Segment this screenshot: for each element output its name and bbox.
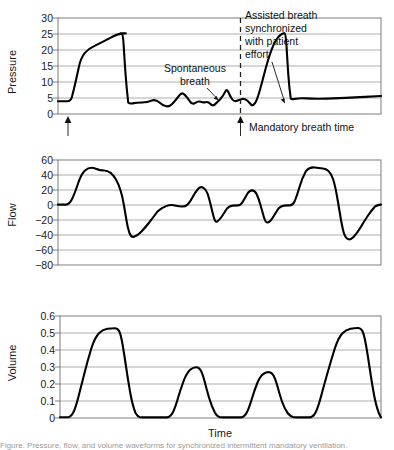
volume-chart-svg: Volume 0.6 0.5 0.4 0.3 0.2 0.1 0 [0,295,394,450]
assisted-breath-label-line3: with patient [244,35,298,47]
flow-gridlines [58,175,381,250]
flow-y-axis-title: Flow [6,203,18,226]
volume-gridlines [60,333,381,401]
spontaneous-breath-label-line2: breath [180,75,210,87]
flow-trace [58,167,381,239]
mandatory-breath-arrow-right [237,116,244,136]
mandatory-breath-arrow-left [65,116,72,136]
volume-trace [60,328,381,417]
pressure-ytick-25: 25 [41,28,53,40]
pressure-tickmarks [53,18,58,114]
pressure-y-axis-title: Pressure [6,50,18,94]
volume-ytick-0-2: 0.2 [40,378,55,390]
pressure-chart-svg: Pressure 30 25 20 15 10 5 0 [0,0,394,145]
pressure-ytick-30: 30 [41,12,53,24]
flow-ytick-20: 20 [41,184,53,196]
flow-ytick-0: 0 [47,199,53,211]
spontaneous-breath-leader [207,88,219,100]
flow-ytick-m60: −60 [35,244,53,256]
assisted-breath-label-line1: Assisted breath [245,9,318,21]
assisted-breath-label-line2: synchronized [245,22,307,34]
volume-tickmarks [55,316,60,418]
volume-y-axis-title: Volume [6,345,18,382]
flow-ytick-m40: −40 [35,229,53,241]
volume-ytick-0-1: 0.1 [40,395,55,407]
volume-ytick-0: 0 [49,412,55,424]
spontaneous-breath-label-line1: Spontaneous [164,62,226,74]
pressure-ytick-20: 20 [41,44,53,56]
mandatory-breath-time-label: Mandatory breath time [249,121,354,133]
volume-chart-panel: Volume 0.6 0.5 0.4 0.3 0.2 0.1 0 [0,295,394,450]
assisted-breath-leader [272,62,285,103]
pressure-ytick-5: 5 [47,92,53,104]
flow-chart-svg: Flow 60 40 20 0 −20 −40 −60 −80 [0,145,394,295]
flow-ytick-40: 40 [41,169,53,181]
flow-ytick-60: 60 [41,154,53,166]
figure-caption: Figure. Pressure, flow, and volume wavef… [0,441,347,450]
pressure-ytick-15: 15 [41,60,53,72]
pressure-ytick-0: 0 [47,108,53,120]
volume-ytick-0-6: 0.6 [40,310,55,322]
volume-ytick-0-3: 0.3 [40,361,55,373]
flow-tickmarks [53,160,58,265]
flow-ytick-m20: −20 [35,214,53,226]
pressure-ytick-10: 10 [41,76,53,88]
assisted-breath-label-line4: effort [245,48,269,60]
pressure-chart-panel: Pressure 30 25 20 15 10 5 0 [0,0,394,145]
flow-chart-panel: Flow 60 40 20 0 −20 −40 −60 −80 [0,145,394,295]
volume-ytick-0-4: 0.4 [40,344,55,356]
ventilator-waveform-figure: Pressure 30 25 20 15 10 5 0 [0,0,394,450]
volume-x-axis-title: Time [208,427,232,439]
volume-ytick-0-5: 0.5 [40,327,55,339]
flow-ytick-m80: −80 [35,259,53,271]
